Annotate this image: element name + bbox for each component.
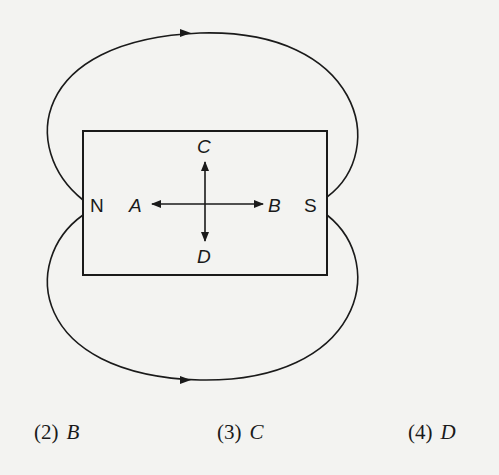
option-number: (3) (217, 420, 242, 444)
option-2: (2)B (34, 420, 79, 445)
magnet-field-diagram: N S A B C D (0, 0, 499, 475)
option-value: B (67, 420, 80, 444)
option-value: D (441, 420, 456, 444)
top-field-arrow-icon (180, 29, 191, 37)
option-number: (2) (34, 420, 59, 444)
bottom-field-arrow-icon (180, 376, 191, 384)
point-a-label: A (128, 195, 142, 216)
option-number: (4) (408, 420, 433, 444)
south-pole-label: S (304, 195, 317, 216)
point-b-label: B (268, 195, 281, 216)
point-c-label: C (197, 136, 211, 157)
option-3: (3)C (217, 420, 264, 445)
option-value: C (250, 420, 264, 444)
option-4: (4)D (408, 420, 456, 445)
point-d-label: D (197, 246, 211, 267)
north-pole-label: N (90, 195, 104, 216)
